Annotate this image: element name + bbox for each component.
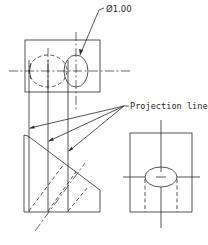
projection-arrowhead-2 xyxy=(48,138,54,142)
hidden-hole-line-1 xyxy=(29,164,64,211)
side-view xyxy=(24,135,100,231)
side-view-outline xyxy=(24,135,100,212)
side-view-top-edge xyxy=(24,135,28,136)
side-hole-center-line xyxy=(35,163,85,231)
hidden-hole-line-2 xyxy=(48,172,76,211)
diameter-callout: Ø1.00 xyxy=(79,4,132,55)
diameter-label: Ø1.00 xyxy=(106,4,132,14)
top-view-outline xyxy=(25,40,100,92)
projection-arrow-1 xyxy=(30,106,124,128)
top-view xyxy=(9,32,130,112)
front-view xyxy=(123,120,200,228)
hidden-hole-line-3 xyxy=(68,187,88,211)
projection-arrow-2 xyxy=(49,106,124,141)
drawing-canvas: Ø1.00 Projection lines xyxy=(0,0,208,245)
projection-label: Projection lines xyxy=(130,101,208,111)
projection-arrowhead-1 xyxy=(29,126,35,129)
projection-callout: Projection lines xyxy=(29,101,208,152)
diameter-leader-arrowhead xyxy=(79,49,83,55)
projection-arrowhead-3 xyxy=(68,147,73,152)
